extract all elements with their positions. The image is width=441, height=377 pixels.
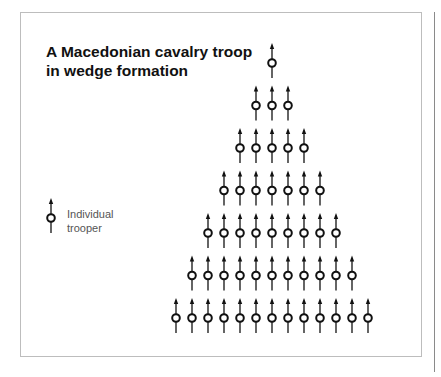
trooper-icon [284, 128, 292, 163]
wedge-formation [0, 0, 441, 377]
trooper-icon [316, 171, 324, 206]
trooper-icon [284, 298, 292, 333]
trooper-icon [300, 256, 308, 291]
trooper-icon [252, 86, 260, 121]
trooper-icon [236, 298, 244, 333]
trooper-icon [300, 128, 308, 163]
legend-line-1: Individual [67, 207, 113, 221]
trooper-icon [300, 171, 308, 206]
trooper-icon [236, 213, 244, 248]
trooper-icon [332, 298, 340, 333]
trooper-icon [348, 298, 356, 333]
trooper-icon [284, 213, 292, 248]
trooper-icon [284, 86, 292, 121]
trooper-icon [316, 213, 324, 248]
trooper-icon [236, 256, 244, 291]
trooper-icon [332, 213, 340, 248]
trooper-icon [188, 256, 196, 291]
trooper-icon [364, 298, 372, 333]
trooper-icon [188, 298, 196, 333]
trooper-icon [268, 43, 276, 78]
trooper-icon [284, 171, 292, 206]
legend-trooper-icon [47, 198, 55, 233]
legend-label: Individual trooper [67, 207, 113, 235]
trooper-icon [268, 86, 276, 121]
trooper-icon [300, 213, 308, 248]
trooper-icon [268, 298, 276, 333]
trooper-icon [252, 171, 260, 206]
trooper-icon [220, 256, 228, 291]
trooper-icon [252, 256, 260, 291]
trooper-icon [236, 171, 244, 206]
trooper-icon [220, 171, 228, 206]
trooper-icon [220, 213, 228, 248]
trooper-icon [300, 298, 308, 333]
trooper-icon [284, 256, 292, 291]
trooper-icon [252, 298, 260, 333]
troopers-group [172, 43, 372, 333]
trooper-icon [268, 213, 276, 248]
trooper-icon [268, 256, 276, 291]
trooper-icon [204, 298, 212, 333]
trooper-icon [252, 128, 260, 163]
trooper-icon [268, 171, 276, 206]
trooper-icon [316, 298, 324, 333]
trooper-icon [268, 128, 276, 163]
trooper-icon [220, 298, 228, 333]
trooper-icon [252, 213, 260, 248]
trooper-icon [332, 256, 340, 291]
trooper-icon [172, 298, 180, 333]
trooper-icon [236, 128, 244, 163]
trooper-icon [348, 256, 356, 291]
trooper-icon [204, 213, 212, 248]
legend-line-2: trooper [67, 221, 113, 235]
trooper-icon [204, 256, 212, 291]
trooper-icon [316, 256, 324, 291]
